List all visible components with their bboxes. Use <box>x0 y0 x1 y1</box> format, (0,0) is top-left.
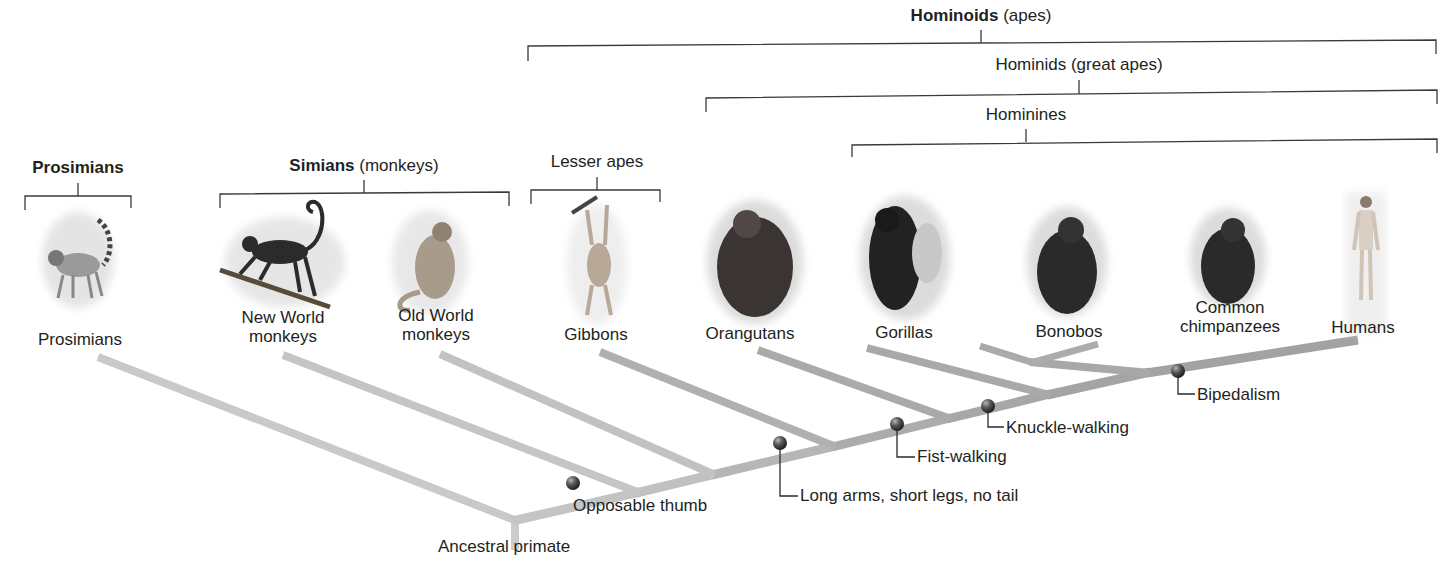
taxon-label-gorillas: Gorillas <box>875 323 933 342</box>
taxon-label-old-world-monkeys: Old World monkeys <box>398 306 473 344</box>
group-title-hominoids-rest: (apes) <box>998 6 1051 25</box>
gorilla-illustration <box>860 196 950 320</box>
new-world-monkey-illustration <box>220 202 345 307</box>
branches <box>98 340 1358 550</box>
old-world-monkey-illustration <box>392 210 468 314</box>
trait-label-fist-walking: Fist-walking <box>917 447 1007 466</box>
trait-label-knuckle-walking: Knuckle-walking <box>1006 418 1129 437</box>
group-title-prosimians-bold: Prosimians <box>32 158 124 177</box>
taxon-label-line2: monkeys <box>398 325 473 344</box>
taxon-label-gibbons: Gibbons <box>564 325 627 344</box>
group-title-prosimians: Prosimians <box>32 158 124 178</box>
branch-new-world-monkeys <box>283 355 640 493</box>
bonobo-illustration <box>1027 207 1107 317</box>
group-title-hominoids: Hominoids (apes) <box>911 6 1052 26</box>
trait-label-long-arms: Long arms, short legs, no tail <box>800 486 1018 505</box>
phylogenetic-tree <box>0 0 1446 569</box>
branch-common-chimpanzees <box>1030 344 1098 363</box>
orangutan-illustration <box>707 200 803 324</box>
branch-old-world-monkeys <box>440 354 715 475</box>
taxon-label-new-world-monkeys: New World monkeys <box>242 308 325 346</box>
group-title-simians-bold: Simians <box>289 156 354 175</box>
bracket-hominoids <box>528 40 1436 61</box>
taxon-label-line2: monkeys <box>242 327 325 346</box>
chimpanzee-illustration <box>1190 208 1266 308</box>
taxon-label-line2: chimpanzees <box>1180 317 1280 336</box>
taxon-label-orangutans: Orangutans <box>706 324 795 343</box>
taxon-label-bonobos: Bonobos <box>1035 322 1102 341</box>
bracket-hominids <box>706 90 1437 112</box>
taxon-label-line1: New World <box>242 308 325 327</box>
group-title-lesser-apes: Lesser apes <box>551 152 644 172</box>
taxon-label-prosimians: Prosimians <box>38 330 122 349</box>
node-fist-walking <box>890 417 904 431</box>
group-title-hominids: Hominids (great apes) <box>995 55 1162 75</box>
taxon-label-humans: Humans <box>1331 318 1394 337</box>
trait-label-opposable-thumb: Opposable thumb <box>573 496 707 515</box>
bracket-prosimians <box>25 196 131 210</box>
node-knuckle-walking <box>981 399 995 413</box>
branch-bonobos <box>980 346 1034 363</box>
group-title-hominoids-bold: Hominoids <box>911 6 999 25</box>
group-title-hominines: Hominines <box>986 105 1066 125</box>
trait-leaders <box>780 376 1195 496</box>
group-brackets <box>25 30 1437 210</box>
taxon-label-common-chimpanzees: Common chimpanzees <box>1180 298 1280 336</box>
gibbon-illustration <box>567 197 627 325</box>
branch-gorillas <box>867 348 1050 395</box>
root-label-ancestral-primate: Ancestral primate <box>438 537 570 556</box>
taxon-label-line1: Common <box>1180 298 1280 317</box>
node-bipedalism <box>1171 364 1185 378</box>
human-illustration <box>1346 192 1386 332</box>
bracket-hominines <box>852 139 1437 157</box>
group-title-simians-rest: (monkeys) <box>355 156 439 175</box>
lemur-illustration <box>42 212 114 308</box>
group-title-simians: Simians (monkeys) <box>289 156 438 176</box>
bracket-simians <box>220 192 509 208</box>
taxon-label-line1: Old World <box>398 306 473 325</box>
branch-prosimians <box>98 357 517 521</box>
node-opposable-thumb <box>566 476 580 490</box>
node-long-arms <box>773 436 787 450</box>
trait-label-bipedalism: Bipedalism <box>1197 385 1280 404</box>
